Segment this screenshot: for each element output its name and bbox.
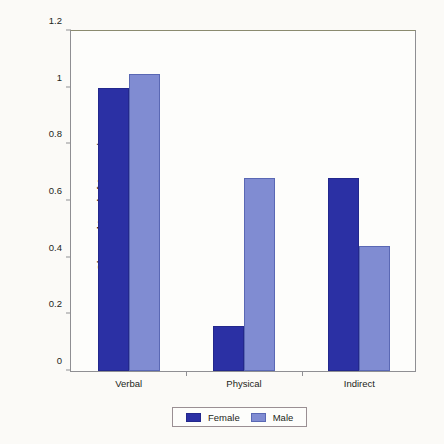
bar-indirect-female — [328, 178, 359, 371]
x-tick-label: Physical — [226, 378, 261, 389]
y-tick-label: 0.8 — [49, 128, 71, 139]
y-tick-mark — [66, 313, 71, 314]
y-tick-mark — [66, 30, 71, 31]
legend-item-female: Female — [186, 412, 240, 423]
chart-figure: Observed Level of Aggression 00.20.40.60… — [0, 0, 444, 444]
legend-label: Female — [208, 412, 240, 423]
y-tick-mark — [66, 143, 71, 144]
x-tick-mark — [302, 371, 303, 376]
bar-physical-female — [213, 326, 244, 371]
y-tick-mark — [66, 86, 71, 87]
y-tick-mark — [66, 200, 71, 201]
plot-area: Observed Level of Aggression 00.20.40.60… — [70, 30, 416, 372]
y-tick-label: 0 — [57, 355, 71, 366]
legend-item-male: Male — [251, 412, 294, 423]
x-tick-label: Verbal — [115, 378, 142, 389]
x-tick-label: Indirect — [344, 378, 375, 389]
bar-physical-male — [244, 178, 275, 371]
legend-swatch-female — [186, 413, 201, 422]
y-tick-label: 0.2 — [49, 298, 71, 309]
y-tick-mark — [66, 370, 71, 371]
y-tick-mark — [66, 256, 71, 257]
y-tick-label: 0.4 — [49, 241, 71, 252]
y-tick-label: 1.2 — [49, 15, 71, 26]
legend-swatch-male — [251, 413, 266, 422]
bar-verbal-female — [98, 88, 129, 371]
legend-label: Male — [273, 412, 294, 423]
bar-indirect-male — [359, 246, 390, 371]
bar-verbal-male — [129, 74, 160, 372]
chart-legend: FemaleMale — [172, 407, 307, 427]
y-tick-label: 0.6 — [49, 185, 71, 196]
x-tick-mark — [186, 371, 187, 376]
y-tick-label: 1 — [57, 71, 71, 82]
